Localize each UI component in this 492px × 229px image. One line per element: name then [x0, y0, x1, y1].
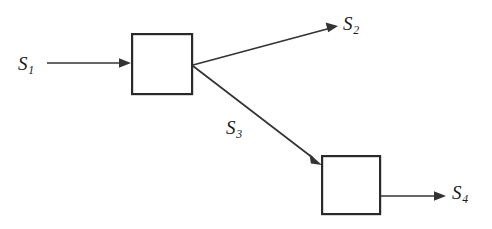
signal-label-s2: S2 — [343, 14, 359, 33]
arrow-head-s1 — [119, 58, 131, 68]
signal-label-s1: S1 — [18, 54, 34, 73]
signal-label-s4: S4 — [452, 183, 468, 202]
diagram-canvas: S1 S2 S3 S4 — [0, 0, 492, 229]
signal-label-s1-subscript: 1 — [28, 64, 34, 77]
signal-line-s3 — [193, 66, 313, 158]
signal-label-s4-subscript: 4 — [462, 193, 468, 206]
signal-arrow-s4 — [381, 191, 446, 201]
signal-label-s1-base: S — [18, 53, 28, 74]
signal-label-s2-subscript: 2 — [353, 24, 359, 37]
block-2[interactable] — [322, 156, 380, 214]
signal-arrow-s2 — [193, 23, 338, 65]
arrow-head-s4 — [434, 191, 446, 201]
block-1[interactable] — [132, 34, 192, 94]
signal-label-s2-base: S — [343, 13, 353, 34]
arrow-head-s3 — [309, 154, 322, 165]
signal-arrow-s1 — [47, 58, 131, 68]
signal-label-s3-base: S — [226, 117, 236, 138]
signal-label-s3-subscript: 3 — [236, 128, 242, 141]
signal-label-s3: S3 — [226, 118, 242, 137]
signal-arrow-s3 — [193, 66, 322, 165]
arrow-head-s2 — [326, 23, 338, 33]
signal-label-s4-base: S — [452, 182, 462, 203]
block-diagram-graphic — [0, 0, 492, 229]
signal-line-s2 — [193, 29, 329, 66]
